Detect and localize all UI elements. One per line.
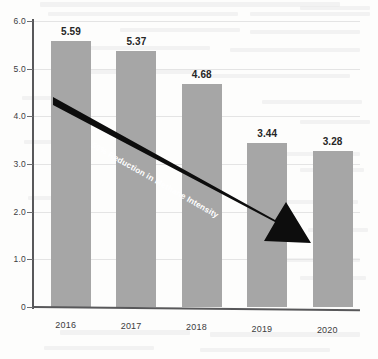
y-axis-tick-label: 5.0 — [0, 64, 26, 74]
bar-value-label-2016: 5.59 — [41, 26, 101, 37]
y-axis-tick-mark — [27, 164, 33, 165]
bar-value-label-2019: 3.44 — [237, 128, 297, 139]
x-axis-tick-label-2020: 2020 — [295, 325, 360, 335]
y-axis-tick-label: 4.0 — [0, 111, 26, 121]
x-axis-tick-label-2019: 2019 — [229, 324, 294, 334]
gridline — [33, 21, 360, 22]
x-axis-tick-label-2016: 2016 — [33, 320, 98, 330]
x-axis-tick-label-2018: 2018 — [164, 322, 229, 332]
y-axis-tick-mark — [27, 307, 33, 308]
bar-value-label-2018: 4.68 — [172, 69, 232, 80]
y-axis-tick-mark — [27, 212, 33, 213]
y-axis-tick-mark — [27, 116, 33, 117]
y-axis-tick-label: 1.0 — [0, 254, 26, 264]
bar-2020 — [313, 151, 353, 307]
y-axis-tick-mark — [27, 69, 33, 70]
y-axis-tick-labels: 01.02.03.04.05.06.0 — [0, 0, 26, 359]
x-axis-tick-label-2017: 2017 — [98, 321, 163, 331]
y-axis-tick-label: 0 — [0, 302, 26, 312]
bar-2019 — [247, 143, 287, 307]
y-axis-tick-mark — [27, 259, 33, 260]
y-axis-tick-label: 6.0 — [0, 16, 26, 26]
bar-value-label-2017: 5.37 — [106, 36, 166, 47]
y-axis-tick-mark — [27, 21, 33, 22]
bar-value-label-2020: 3.28 — [303, 136, 363, 147]
y-axis-tick-label: 3.0 — [0, 159, 26, 169]
methane-intensity-bar-chart: 01.02.03.04.05.06.0 5.595.374.683.443.28… — [0, 0, 378, 359]
plot-area — [33, 21, 360, 307]
bar-2016 — [51, 41, 91, 307]
y-axis-tick-label: 2.0 — [0, 207, 26, 217]
